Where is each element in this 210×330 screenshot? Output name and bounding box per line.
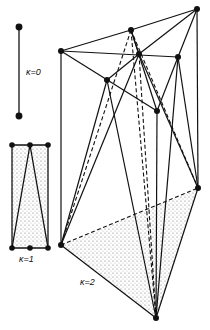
label-k1: κ=1 <box>19 254 34 264</box>
label-k2: κ=2 <box>80 277 95 287</box>
vertex <box>195 185 201 191</box>
vertex <box>104 77 110 83</box>
label-k0: κ=0 <box>26 67 41 77</box>
vertex <box>16 113 22 119</box>
vertex <box>136 51 142 57</box>
complex-k0 <box>16 24 22 119</box>
vertex <box>175 54 181 60</box>
vertex <box>9 245 15 251</box>
vertex <box>58 48 64 54</box>
vertex <box>58 242 64 248</box>
vertex <box>16 24 22 30</box>
vertex <box>128 27 134 33</box>
complex-k2 <box>58 6 201 321</box>
shaded-region <box>12 145 48 248</box>
vertex <box>9 142 15 148</box>
complex-k1 <box>9 142 51 251</box>
vertex <box>27 142 33 148</box>
vertex <box>153 315 159 321</box>
vertex <box>45 142 51 148</box>
vertex <box>45 245 51 251</box>
vertex <box>194 6 200 12</box>
vertex <box>154 108 160 114</box>
vertex <box>27 245 33 251</box>
simplicial-complex-diagram: κ=0 κ=1 <box>0 0 210 330</box>
